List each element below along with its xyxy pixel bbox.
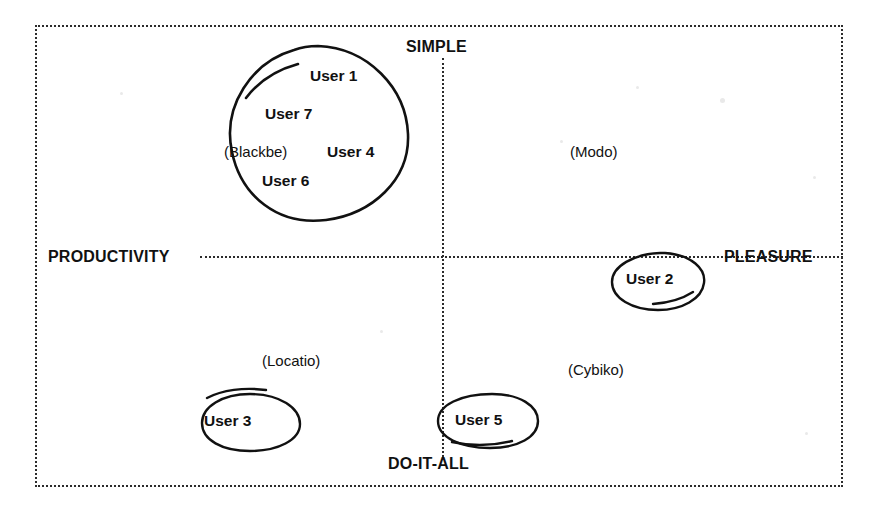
axis-pole-pleasure: PLEASURE: [724, 248, 813, 266]
point-label-locatio: (Locatio): [262, 352, 320, 369]
axis-pole-productivity: PRODUCTIVITY: [48, 248, 170, 266]
point-label-blackbe: (Blackbe): [224, 143, 287, 160]
axis-pole-do-it-all: DO-IT-ALL: [388, 455, 469, 473]
point-label-user-1: User 1: [310, 67, 357, 85]
point-label-cybiko: (Cybiko): [568, 361, 624, 378]
point-label-user-6: User 6: [262, 172, 309, 190]
point-label-user-4: User 4: [327, 143, 374, 161]
point-label-modo: (Modo): [570, 143, 618, 160]
point-label-user-3: User 3: [204, 412, 251, 430]
point-label-user-5: User 5: [455, 411, 502, 429]
point-label-user-2: User 2: [626, 270, 673, 288]
axis-pole-simple: SIMPLE: [406, 38, 467, 56]
perceptual-map: SIMPLE DO-IT-ALL PRODUCTIVITY PLEASURE U…: [0, 0, 871, 513]
point-label-user-7: User 7: [265, 105, 312, 123]
